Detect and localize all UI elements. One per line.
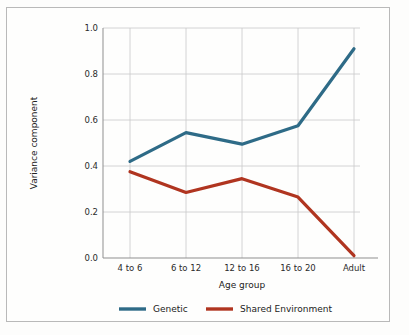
y-tick-label-0.6: 0.6	[84, 115, 98, 125]
y-tick-label-0.4: 0.4	[84, 161, 98, 171]
y-tick-label-0.0: 0.0	[84, 253, 98, 263]
x-tick-label-2: 12 to 16	[224, 263, 260, 273]
x-axis-title: Age group	[219, 280, 266, 290]
y-axis-tick-labels: 1.0 0.8 0.6 0.4 0.2 0.0	[84, 23, 98, 263]
line-chart: 1.0 0.8 0.6 0.4 0.2 0.0 4 to 6 6 to 12 1…	[0, 0, 409, 335]
legend-label-genetic: Genetic	[153, 304, 188, 314]
x-axis-tick-labels: 4 to 6 6 to 12 12 to 16 16 to 20 Adult	[118, 263, 366, 273]
x-tick-label-1: 6 to 12	[171, 263, 201, 273]
horizontal-gridlines	[103, 28, 360, 212]
x-tick-label-3: 16 to 20	[280, 263, 316, 273]
figure-container: 1.0 0.8 0.6 0.4 0.2 0.0 4 to 6 6 to 12 1…	[0, 0, 409, 335]
y-tick-label-0.8: 0.8	[84, 69, 98, 79]
y-tick-label-0.2: 0.2	[84, 207, 98, 217]
x-tick-label-0: 4 to 6	[118, 263, 143, 273]
chart-legend: Genetic Shared Environment	[119, 304, 332, 314]
legend-label-shared-environment: Shared Environment	[240, 304, 332, 314]
x-tick-label-4: Adult	[343, 263, 366, 273]
y-axis-title: Variance component	[29, 96, 39, 189]
y-tick-label-1.0: 1.0	[84, 23, 98, 33]
